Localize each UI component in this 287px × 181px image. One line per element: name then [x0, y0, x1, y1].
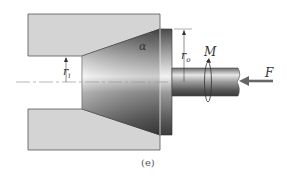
diagram-canvas	[0, 0, 287, 181]
force-label: F	[265, 67, 273, 79]
moment-label: M	[204, 46, 216, 58]
r-i-label: ri	[63, 66, 71, 80]
r-o-arrow-icon	[182, 30, 186, 35]
force-arrow-icon	[239, 76, 249, 86]
figure-caption: (e)	[141, 158, 155, 168]
alpha-label: α	[139, 41, 146, 52]
r-o-label: ro	[181, 50, 190, 64]
r-i-arrow-icon	[64, 57, 68, 62]
